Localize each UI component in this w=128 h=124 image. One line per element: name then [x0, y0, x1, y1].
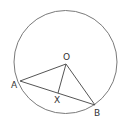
label-O: O: [63, 52, 70, 62]
geometry-diagram: O A B X: [0, 0, 128, 124]
radius-OA: [20, 64, 66, 81]
label-B: B: [94, 108, 100, 118]
diagram-svg: O A B X: [0, 0, 128, 124]
label-X: X: [54, 95, 60, 105]
radius-OB: [66, 64, 95, 105]
circle: [14, 11, 117, 114]
segment-OX: [58, 64, 66, 93]
label-A: A: [11, 80, 18, 90]
